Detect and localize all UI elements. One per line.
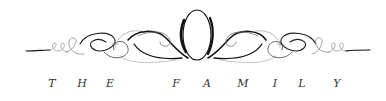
tagline-letter-a: A bbox=[203, 78, 211, 89]
calligraphic-flourish-ornament bbox=[0, 0, 386, 101]
tagline-letter-e: E bbox=[106, 78, 114, 89]
tagline-letter-l: L bbox=[298, 78, 305, 89]
tagline-letter-m: M bbox=[237, 78, 248, 89]
tagline-letter-h: H bbox=[77, 78, 87, 89]
family-logo: T H E F A M I L Y bbox=[0, 0, 386, 101]
tagline-letter-y: Y bbox=[333, 78, 340, 89]
tagline-letter-f: F bbox=[172, 78, 180, 89]
tagline-letter-i: I bbox=[273, 78, 277, 89]
tagline-letter-t: T bbox=[48, 78, 55, 89]
